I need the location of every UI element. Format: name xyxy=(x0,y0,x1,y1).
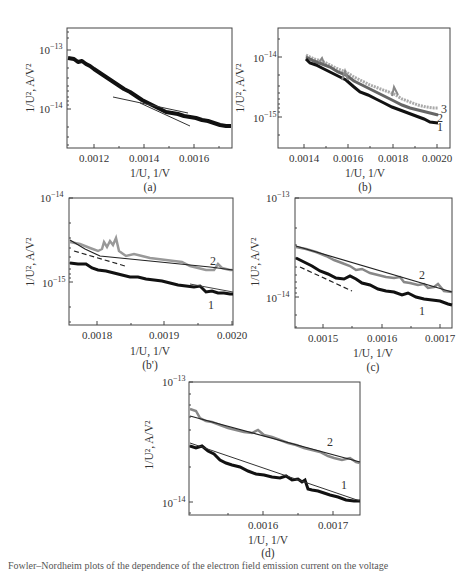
panel-d: 10−13 10−14 0.0016 0.0017 1/U, 1/V (d) 1… xyxy=(143,374,360,560)
x-axis-label: 1/U, 1/V xyxy=(248,534,289,547)
data-series-1 xyxy=(70,263,233,294)
panel-label: (b) xyxy=(358,181,372,194)
x-tick-label: 0.0016 xyxy=(179,152,210,164)
y-tick-label: 10−13 xyxy=(39,42,63,56)
y-tick-label: 10−14 xyxy=(39,101,63,115)
plot-frame xyxy=(295,198,452,328)
curve-label-1: 1 xyxy=(419,304,425,318)
y-tick-label: 10−14 xyxy=(266,290,290,304)
x-tick-label: 0.0017 xyxy=(425,332,456,344)
x-axis-label: 1/U, 1/V xyxy=(130,167,171,180)
data-series-3 xyxy=(306,55,438,108)
y-tick-label: 10−15 xyxy=(253,110,277,124)
panel-label: (c) xyxy=(367,361,380,374)
x-tick-label: 0.0015 xyxy=(308,332,339,344)
panel-label: (a) xyxy=(144,181,157,194)
curve-label-1: 1 xyxy=(208,298,214,312)
curve-label-1: 1 xyxy=(341,478,347,492)
plot-frame xyxy=(278,28,450,148)
panel-label: (d) xyxy=(261,547,275,560)
ticks xyxy=(278,39,437,148)
y-axis-label: 1/U², A/V² xyxy=(143,420,156,470)
fit-line-2 xyxy=(70,240,233,270)
figure-caption: Fowler–Nordheim plots of the dependence … xyxy=(8,560,474,571)
x-tick-label: 0.0016 xyxy=(248,519,279,531)
data-series xyxy=(68,58,231,126)
x-tick-label: 0.0018 xyxy=(378,152,409,164)
y-tick-label: 10−14 xyxy=(253,50,277,64)
x-tick-label: 0.0020 xyxy=(217,329,248,341)
y-ticks xyxy=(67,32,219,148)
plot-frame xyxy=(67,28,232,148)
panel-label: (b') xyxy=(142,359,158,372)
y-axis-label: 1/U², A/V² xyxy=(24,237,37,287)
y-tick-label: 10−14 xyxy=(40,190,64,204)
y-tick-label: 10−14 xyxy=(162,495,186,509)
curve-label-1: 1 xyxy=(437,120,443,134)
y-axis-label: 1/U², A/V² xyxy=(24,63,37,113)
panel-b: 10−14 10−15 0.0014 0.0016 0.0018 0.0020 … xyxy=(234,28,453,194)
y-tick-label: 10−13 xyxy=(266,190,290,204)
panel-a: 10−13 10−14 0.0012 0.0014 0.0016 1/U, 1/… xyxy=(24,28,232,194)
x-axis-label: 1/U, 1/V xyxy=(130,345,171,358)
y-tick-label: 10−15 xyxy=(42,275,66,289)
x-tick-label: 0.0017 xyxy=(318,519,349,531)
fit-line-1 xyxy=(190,443,360,501)
x-tick-label: 0.0018 xyxy=(82,329,113,341)
x-tick-label: 0.0014 xyxy=(129,152,160,164)
x-tick-label: 0.0019 xyxy=(149,329,180,341)
curve-label-2: 2 xyxy=(210,254,216,268)
y-axis-label: 1/U², A/V² xyxy=(234,63,247,113)
x-tick-label: 0.0016 xyxy=(367,332,398,344)
curve-label-2: 2 xyxy=(327,435,333,449)
data-series-1 xyxy=(296,258,452,305)
figure-canvas: 10−13 10−14 0.0012 0.0014 0.0016 1/U, 1/… xyxy=(0,0,474,573)
x-axis-label: 1/U, 1/V xyxy=(345,167,386,180)
x-axis-label: 1/U, 1/V xyxy=(353,347,394,360)
x-tick-label: 0.0020 xyxy=(422,152,453,164)
y-tick-label: 10−13 xyxy=(162,374,186,388)
panel-b-prime: 10−14 10−15 0.0018 0.0019 0.0020 1/U, 1/… xyxy=(24,190,248,372)
fit-line xyxy=(113,97,188,113)
x-tick-label: 0.0012 xyxy=(79,152,109,164)
curve-label-2: 2 xyxy=(419,268,425,282)
y-axis-label: 1/U², A/V² xyxy=(249,237,262,287)
panel-c: 10−13 10−14 0.0015 0.0016 0.0017 1/U, 1/… xyxy=(249,190,456,374)
x-tick-label: 0.0016 xyxy=(333,152,364,164)
x-tick-label: 0.0014 xyxy=(289,152,320,164)
